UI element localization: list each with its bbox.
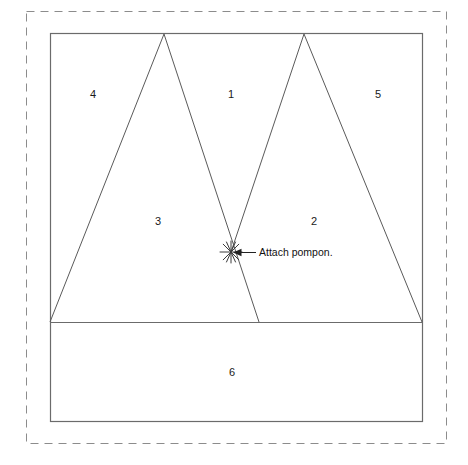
pattern-diagram: Attach pompon. 1 2 3 4 5 6 xyxy=(0,0,468,465)
piece-label-6: 6 xyxy=(229,366,235,378)
piece-label-2: 2 xyxy=(311,215,317,227)
callout-label: Attach pompon. xyxy=(259,246,333,258)
piece-label-5: 5 xyxy=(375,88,381,100)
piece-label-3: 3 xyxy=(155,215,161,227)
piece-label-4: 4 xyxy=(90,88,96,100)
fabric-rectangle xyxy=(51,34,423,422)
diagram-canvas: Attach pompon. 1 2 3 4 5 6 xyxy=(0,0,468,465)
piece-label-1: 1 xyxy=(228,88,234,100)
